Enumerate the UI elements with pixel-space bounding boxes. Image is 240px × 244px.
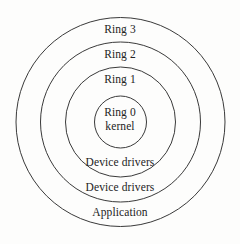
label-kernel: kernel (0, 120, 240, 133)
label-ring-2: Ring 2 (0, 48, 240, 61)
ring-diagram-canvas: Ring 3 Ring 2 Ring 1 Ring 0 kernel Devic… (0, 0, 240, 244)
label-device-drivers-outer: Device drivers (0, 181, 240, 194)
label-ring-1: Ring 1 (0, 73, 240, 86)
label-ring-3: Ring 3 (0, 23, 240, 36)
label-ring-0: Ring 0 (0, 106, 240, 119)
label-application: Application (0, 206, 240, 219)
label-device-drivers-inner: Device drivers (0, 156, 240, 169)
